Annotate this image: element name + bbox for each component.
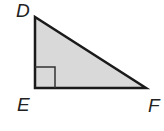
vertex-label-d: D [16,0,30,21]
triangle-diagram: D E F [0,0,164,131]
triangle-def [35,17,146,88]
vertex-label-e: E [17,94,30,115]
vertex-label-f: F [148,95,161,116]
